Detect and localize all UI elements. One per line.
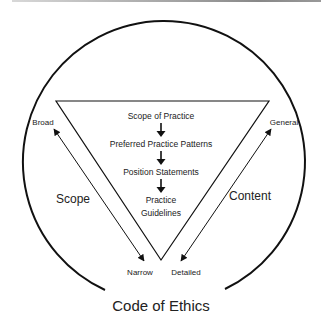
label-narrow: Narrow: [127, 268, 153, 277]
level-position-statements: Position Statements: [123, 167, 199, 177]
label-general: General: [270, 118, 299, 127]
level-guidelines: Guidelines: [141, 208, 181, 218]
label-detailed: Detailed: [171, 268, 200, 277]
code-of-ethics-diagram: Scope of Practice Preferred Practice Pat…: [0, 0, 321, 329]
level-practice: Practice: [146, 195, 177, 205]
label-broad: Broad: [32, 118, 53, 127]
level-preferred-practice-patterns: Preferred Practice Patterns: [110, 139, 213, 149]
down-arrow-icon: [157, 179, 166, 193]
label-scope: Scope: [56, 192, 90, 206]
label-content: Content: [229, 189, 272, 203]
down-arrow-icon: [157, 123, 166, 137]
diagram-title: Code of Ethics: [112, 297, 210, 314]
hierarchy-triangle: [56, 101, 269, 260]
level-scope-of-practice: Scope of Practice: [128, 111, 195, 121]
down-arrow-icon: [157, 151, 166, 165]
ethics-circle: [23, 21, 305, 290]
